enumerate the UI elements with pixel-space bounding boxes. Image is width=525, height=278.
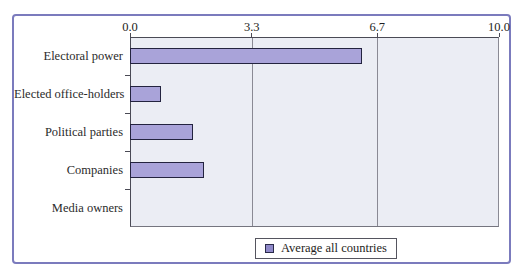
y-axis-tick	[125, 151, 130, 152]
gridline	[377, 38, 378, 226]
x-tick-label: 0.0	[110, 20, 150, 34]
legend-swatch-icon	[265, 244, 274, 253]
y-axis-tick	[125, 75, 130, 76]
y-axis-tick	[125, 189, 130, 190]
x-tick-label: 10.0	[479, 20, 519, 34]
figure: 0.03.36.710.0 Electoral powerElected off…	[0, 0, 525, 278]
legend-label: Average all countries	[281, 239, 387, 258]
legend: Average all countries	[255, 238, 397, 259]
bar	[130, 124, 193, 140]
x-tick-label: 3.3	[232, 20, 272, 34]
category-label: Political parties	[14, 124, 123, 140]
category-label: Electoral power	[14, 48, 123, 64]
gridline	[252, 38, 253, 226]
category-label: Elected office-holders	[14, 86, 123, 102]
bar	[130, 86, 161, 102]
y-axis-tick	[125, 113, 130, 114]
category-label: Media owners	[14, 200, 123, 216]
bar	[130, 48, 362, 64]
bar	[130, 162, 204, 178]
category-label: Companies	[14, 162, 123, 178]
x-tick-label: 6.7	[357, 20, 397, 34]
